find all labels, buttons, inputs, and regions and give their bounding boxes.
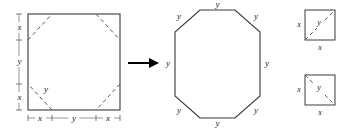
corner-cut-top-left xyxy=(28,14,52,40)
geometry-figure: y x y x x y x xyxy=(0,0,344,128)
horizontal-label-middle: y xyxy=(71,113,76,123)
octagon-label-bottom-left: y xyxy=(176,105,181,115)
corner-cut-bottom-left xyxy=(28,84,52,110)
octagon-label-bottom: y xyxy=(215,118,220,128)
square-interior-label: y xyxy=(43,84,48,94)
octagon-label-bottom-right: y xyxy=(253,105,258,115)
transformation-arrow xyxy=(128,58,159,68)
octagon-label-left: y xyxy=(165,58,170,68)
horizontal-label-right: x xyxy=(105,113,110,123)
vertical-label-bottom: x xyxy=(17,92,22,102)
horizontal-label-left: x xyxy=(37,113,42,123)
corner-detail-bottom-group: y x x xyxy=(296,75,335,117)
original-square-group: y x y x x y x xyxy=(14,14,120,124)
corner-detail-top-group: y x x xyxy=(296,10,335,52)
vertical-label-top: x xyxy=(17,22,22,32)
square-outline xyxy=(28,14,120,110)
arrow-head xyxy=(149,58,159,68)
octagon-label-top: y xyxy=(215,0,220,9)
corner-detail-bottom-bottom-label: x xyxy=(317,108,322,117)
corner-detail-top-hyp-label: y xyxy=(316,18,321,27)
octagon-label-top-right: y xyxy=(253,11,258,21)
regular-octagon-group: y y y y y y y y xyxy=(165,0,269,128)
corner-detail-top-left-label: x xyxy=(296,20,301,29)
corner-cut-bottom-right xyxy=(96,84,120,110)
corner-detail-bottom-hyp-label: y xyxy=(316,83,321,92)
corner-detail-top-bottom-label: x xyxy=(317,43,322,52)
corner-cut-top-right xyxy=(96,14,120,40)
corner-detail-bottom-left-label: x xyxy=(296,85,301,94)
vertical-label-middle: y xyxy=(17,56,22,66)
octagon-outline xyxy=(175,10,260,118)
figure-canvas: y x y x x y x xyxy=(0,0,344,128)
octagon-label-right: y xyxy=(264,58,269,68)
octagon-label-top-left: y xyxy=(176,11,181,21)
